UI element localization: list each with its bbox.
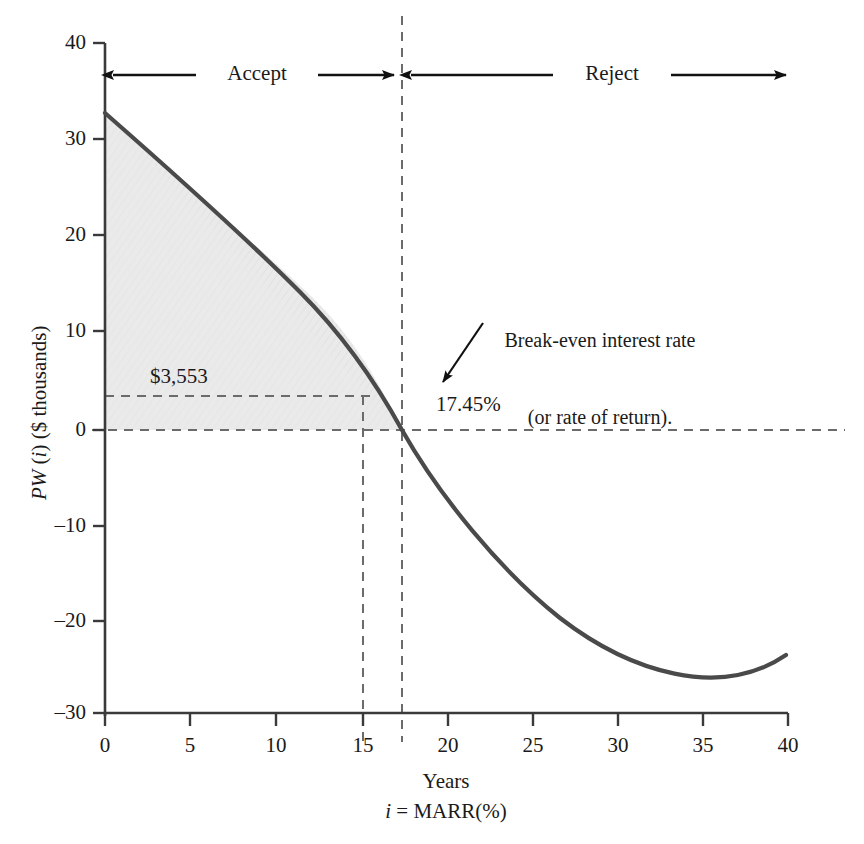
x-tick-label-15: 15 bbox=[343, 734, 383, 758]
y-axis-ticks bbox=[93, 43, 105, 713]
y-tick-label-30: 30 bbox=[40, 127, 86, 151]
x-axis-subtitle: i = MARR(%) bbox=[356, 800, 536, 824]
x-axis-ticks bbox=[105, 713, 788, 726]
y-tick-label-neg10: –10 bbox=[28, 514, 86, 538]
x-tick-label-5: 5 bbox=[170, 734, 210, 758]
x-tick-label-30: 30 bbox=[598, 734, 638, 758]
y-tick-label-neg20: –20 bbox=[28, 609, 86, 633]
x-tick-label-40: 40 bbox=[768, 734, 808, 758]
y-tick-label-neg30: –30 bbox=[28, 701, 86, 725]
y-tick-label-40: 40 bbox=[40, 31, 86, 55]
pw-value-label: $3,553 bbox=[150, 365, 208, 389]
breakeven-callout-line1: Break-even interest rate bbox=[455, 328, 745, 354]
x-tick-label-20: 20 bbox=[428, 734, 468, 758]
breakeven-callout-line2: (or rate of return). bbox=[455, 405, 745, 431]
x-tick-label-35: 35 bbox=[683, 734, 723, 758]
y-tick-label-20: 20 bbox=[40, 223, 86, 247]
x-tick-label-10: 10 bbox=[256, 734, 296, 758]
x-tick-label-0: 0 bbox=[85, 734, 125, 758]
breakeven-callout: Break-even interest rate (or rate of ret… bbox=[455, 277, 745, 482]
x-axis-title: Years bbox=[386, 770, 506, 794]
reject-region-label: Reject bbox=[553, 62, 671, 86]
y-axis-title: PW (i) ($ thousands) bbox=[28, 326, 52, 500]
x-tick-label-25: 25 bbox=[513, 734, 553, 758]
figure-container: 40 30 20 10 0 –10 –20 –30 0 5 10 15 20 2… bbox=[0, 0, 864, 844]
accept-region-label: Accept bbox=[196, 62, 318, 86]
